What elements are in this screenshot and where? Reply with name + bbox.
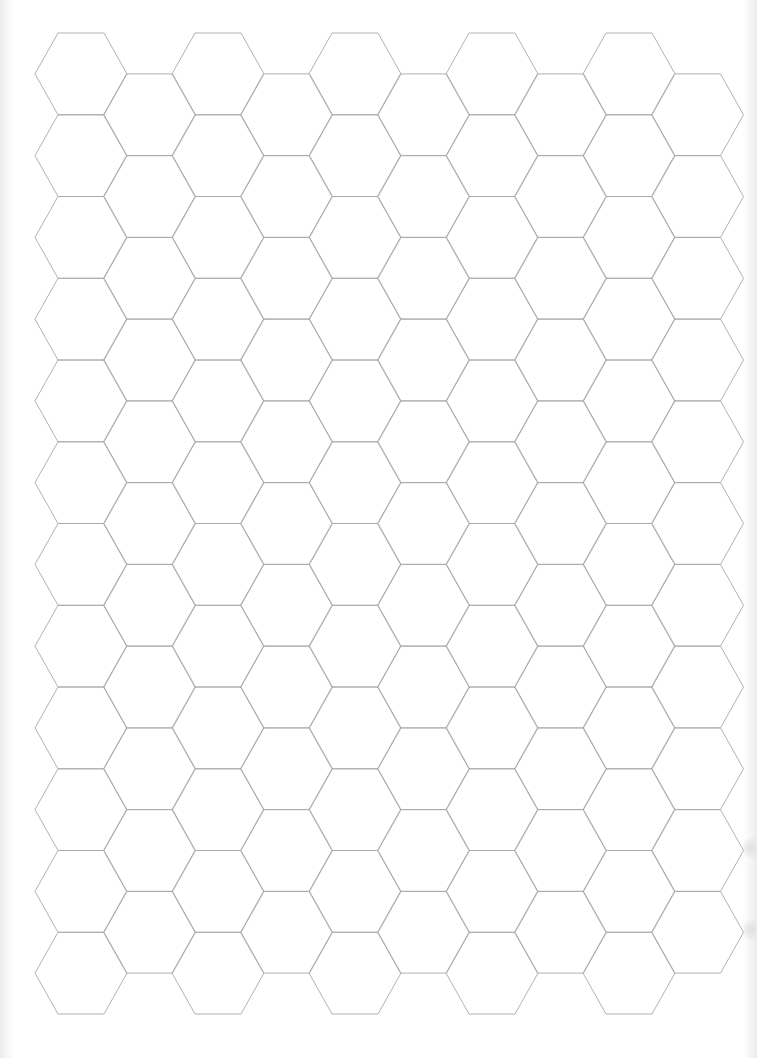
hex-cell <box>172 769 264 851</box>
hex-cell <box>652 646 744 728</box>
hex-cell <box>309 33 401 115</box>
hex-cell <box>35 524 127 606</box>
hex-cell <box>446 524 538 606</box>
hex-cell <box>241 319 333 401</box>
hex-cell <box>35 605 127 687</box>
hex-cell <box>583 360 675 442</box>
hex-cell <box>172 115 264 197</box>
hex-cell <box>104 810 196 892</box>
hex-cell <box>378 810 470 892</box>
hex-cell <box>515 483 607 565</box>
hex-cell <box>378 319 470 401</box>
hex-cell <box>241 564 333 646</box>
hex-cell <box>172 360 264 442</box>
hex-cell <box>446 851 538 933</box>
hex-cell <box>35 687 127 769</box>
hex-cell <box>515 74 607 156</box>
hex-cell <box>104 74 196 156</box>
hex-cell <box>378 401 470 483</box>
hex-cell <box>172 687 264 769</box>
hex-cell <box>172 932 264 1014</box>
hex-cell <box>35 851 127 933</box>
hex-cell <box>652 74 744 156</box>
hex-cell <box>309 769 401 851</box>
hex-cell <box>104 646 196 728</box>
hex-cell <box>309 932 401 1014</box>
hex-cell <box>35 360 127 442</box>
hex-cell <box>378 891 470 973</box>
hex-cell <box>583 197 675 279</box>
hex-cell <box>309 278 401 360</box>
hex-cell <box>583 278 675 360</box>
hex-cell <box>172 33 264 115</box>
hex-cell <box>515 237 607 319</box>
hex-cell <box>446 197 538 279</box>
hex-cell <box>309 115 401 197</box>
hex-cell <box>241 401 333 483</box>
hex-cell <box>241 728 333 810</box>
hex-cell <box>172 278 264 360</box>
hex-cell <box>309 605 401 687</box>
hex-cell <box>309 524 401 606</box>
hex-cell <box>35 769 127 851</box>
hex-cell <box>652 891 744 973</box>
hex-cell <box>652 483 744 565</box>
hex-cell <box>515 728 607 810</box>
hex-cell <box>241 483 333 565</box>
hex-cell <box>104 401 196 483</box>
hex-cell <box>309 197 401 279</box>
hex-cell <box>241 156 333 238</box>
hex-cell <box>652 728 744 810</box>
hex-cell <box>172 605 264 687</box>
hex-cell <box>104 891 196 973</box>
hex-cell <box>583 33 675 115</box>
scan-smudge <box>741 917 757 943</box>
hex-cell <box>35 278 127 360</box>
hex-cell <box>378 483 470 565</box>
hex-cell <box>583 851 675 933</box>
hex-cell <box>652 810 744 892</box>
hex-cell <box>104 728 196 810</box>
hex-cell <box>378 646 470 728</box>
hex-cell <box>446 442 538 524</box>
hex-cell <box>515 156 607 238</box>
hex-cell <box>35 115 127 197</box>
hex-cell <box>241 646 333 728</box>
hex-cell <box>583 769 675 851</box>
hex-cell <box>446 33 538 115</box>
hex-cell <box>35 932 127 1014</box>
hex-cell <box>446 360 538 442</box>
hex-cell <box>515 564 607 646</box>
hex-cell <box>652 401 744 483</box>
hex-cell <box>378 237 470 319</box>
hex-cell <box>241 810 333 892</box>
hex-cell <box>515 319 607 401</box>
hex-cell <box>378 156 470 238</box>
hex-cell <box>378 74 470 156</box>
hex-cell <box>172 197 264 279</box>
hex-cell <box>35 442 127 524</box>
hex-cell <box>35 33 127 115</box>
hex-cell <box>241 891 333 973</box>
hex-cell <box>104 237 196 319</box>
hex-cell <box>515 891 607 973</box>
hex-cell <box>104 319 196 401</box>
hex-cell <box>309 687 401 769</box>
hex-cell <box>583 442 675 524</box>
hex-cell <box>583 687 675 769</box>
hex-cell <box>309 851 401 933</box>
hex-cell <box>652 319 744 401</box>
hex-cell <box>172 851 264 933</box>
hex-grid-page <box>0 0 757 1058</box>
hex-cell <box>446 605 538 687</box>
hex-cell <box>652 237 744 319</box>
hex-cell <box>583 932 675 1014</box>
hex-cell <box>515 646 607 728</box>
hex-cell <box>515 810 607 892</box>
hex-cell <box>583 524 675 606</box>
hex-grid <box>0 0 757 1058</box>
hex-cell <box>515 401 607 483</box>
hex-cell <box>446 769 538 851</box>
hex-cell <box>172 442 264 524</box>
hex-cell <box>583 115 675 197</box>
